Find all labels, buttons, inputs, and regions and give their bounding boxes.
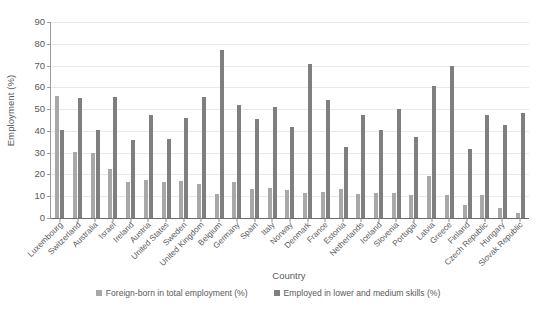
bar-group <box>440 22 458 218</box>
x-axis-tick-label: Germany <box>227 219 245 267</box>
bar-group <box>51 22 69 218</box>
y-axis-tick-label: 10 <box>34 191 45 201</box>
bar <box>149 115 153 218</box>
y-axis-tick-labels: 0102030405060708090 <box>22 16 48 220</box>
x-axis-title: Country <box>50 270 528 281</box>
bar-group <box>405 22 423 218</box>
bar <box>131 140 135 218</box>
bar-group <box>122 22 140 218</box>
bar-group <box>511 22 529 218</box>
x-axis-tick-labels: LuxembourgSwitzerlandAustraliaIsraelIrel… <box>50 219 528 267</box>
bar <box>356 194 360 218</box>
bar <box>303 193 307 218</box>
bar <box>167 139 171 218</box>
legend-swatch-icon <box>96 290 102 296</box>
bar-group <box>317 22 335 218</box>
bar <box>397 109 401 218</box>
bar <box>321 192 325 218</box>
bar <box>255 119 259 218</box>
bar-group <box>281 22 299 218</box>
bar <box>202 97 206 218</box>
bar-group <box>494 22 512 218</box>
bar <box>344 147 348 218</box>
bar-group <box>423 22 441 218</box>
bar <box>108 169 112 218</box>
y-axis-title-label: Employment (%) <box>6 74 17 146</box>
bar <box>450 66 454 218</box>
x-axis-tick-label: Slovak Republic <box>510 219 528 267</box>
bar <box>250 189 254 218</box>
bar <box>463 205 467 218</box>
bar-group <box>299 22 317 218</box>
y-axis-tick-label: 60 <box>34 83 45 93</box>
y-axis-title: Employment (%) <box>0 0 22 220</box>
bar <box>285 190 289 218</box>
bar <box>521 113 525 218</box>
bar-chart: Employment (%) 0102030405060708090 Luxem… <box>0 0 536 309</box>
bar <box>498 208 502 218</box>
bar <box>308 64 312 218</box>
bar <box>427 176 431 218</box>
bar-group <box>476 22 494 218</box>
bar <box>215 194 219 218</box>
legend-label: Employed in lower and medium skills (%) <box>284 288 441 298</box>
bar <box>326 100 330 218</box>
y-axis-tick-label: 20 <box>34 170 45 180</box>
bar <box>432 86 436 218</box>
bar-group <box>263 22 281 218</box>
bar <box>91 153 95 218</box>
bar <box>220 50 224 218</box>
plot-area <box>50 22 529 219</box>
bar-group <box>193 22 211 218</box>
bar <box>179 181 183 218</box>
bar <box>379 130 383 218</box>
y-axis-tick-label: 50 <box>34 104 45 114</box>
bar <box>503 125 507 218</box>
bar <box>445 195 449 218</box>
bar-group <box>246 22 264 218</box>
chart-legend: Foreign-born in total employment (%)Empl… <box>0 288 536 298</box>
bar <box>392 193 396 218</box>
legend-entry[interactable]: Employed in lower and medium skills (%) <box>274 288 441 298</box>
bar <box>339 189 343 218</box>
bars-layer <box>51 22 529 218</box>
y-axis-tick-label: 0 <box>40 213 45 223</box>
bar <box>96 130 100 218</box>
bar <box>414 137 418 218</box>
legend-swatch-icon <box>274 290 280 296</box>
bar-group <box>387 22 405 218</box>
bar <box>162 182 166 218</box>
legend-label: Foreign-born in total employment (%) <box>106 288 248 298</box>
bar <box>184 118 188 218</box>
bar-group <box>140 22 158 218</box>
legend-entry[interactable]: Foreign-born in total employment (%) <box>96 288 248 298</box>
bar <box>290 127 294 218</box>
bar <box>126 182 130 218</box>
bar <box>237 105 241 218</box>
y-axis-tick-label: 40 <box>34 126 45 136</box>
y-axis-tick-label: 90 <box>34 17 45 27</box>
x-axis-tick-label: Australia <box>85 219 103 267</box>
bar <box>273 107 277 218</box>
y-axis-tick-label: 30 <box>34 148 45 158</box>
bar <box>468 149 472 218</box>
x-axis-tick-label: Portugal <box>404 219 422 267</box>
bar <box>113 97 117 218</box>
bar <box>268 188 272 218</box>
bar-group <box>175 22 193 218</box>
y-axis-tick-label: 70 <box>34 61 45 71</box>
bar <box>144 180 148 218</box>
bar-group <box>210 22 228 218</box>
y-axis-tick-label: 80 <box>34 39 45 49</box>
bar <box>232 182 236 218</box>
bar-group <box>157 22 175 218</box>
bar-group <box>69 22 87 218</box>
x-axis-tick-label: Spain <box>245 219 263 267</box>
bar-group <box>352 22 370 218</box>
bar <box>197 184 201 218</box>
bar <box>55 96 59 218</box>
bar-group <box>228 22 246 218</box>
bar <box>361 115 365 218</box>
bar <box>78 98 82 218</box>
bar-group <box>86 22 104 218</box>
